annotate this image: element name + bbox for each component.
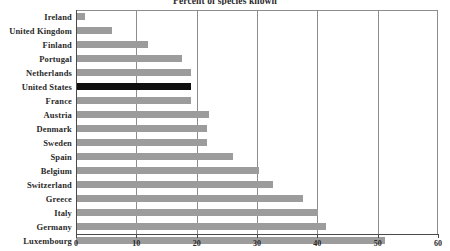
value-axis-origin-spine [76,10,77,235]
bar-chart: Percent of species known IrelandUnited K… [0,0,450,251]
bar [76,153,233,160]
category-label: Sweden [43,136,72,150]
category-label: Netherlands [26,66,72,80]
category-label: Switzerland [27,178,72,192]
bar [76,41,148,48]
plot-frame-right-border [437,10,438,234]
value-axis-tick-label: 10 [121,239,151,248]
value-axis-tick [197,234,198,238]
category-label: France [46,94,72,108]
bar [76,209,318,216]
bar [76,181,273,188]
category-label: Germany [36,220,72,234]
bar [76,97,191,104]
value-axis-tick-label: 30 [242,239,272,248]
category-label: United States [22,80,72,94]
category-label: Portugal [39,52,72,66]
bar [76,27,112,34]
category-label: Spain [50,150,72,164]
category-label: Finland [43,38,72,52]
bar [76,83,191,90]
category-label: Greece [46,192,72,206]
value-axis-tick-label: 60 [423,239,450,248]
bar [76,223,326,230]
value-axis-tick [136,234,137,238]
value-axis-tick [317,234,318,238]
bar [76,13,85,20]
bar [76,69,191,76]
value-axis-tick-label: 20 [182,239,212,248]
gridline-50 [378,10,379,234]
bar [76,195,303,202]
value-axis-tick [76,234,77,238]
category-label: Italy [54,206,72,220]
category-axis: IrelandUnited KingdomFinlandPortugalNeth… [0,10,74,234]
category-label: Denmark [36,122,72,136]
value-axis-tick-label: 50 [363,239,393,248]
value-axis-tick [438,234,439,238]
value-axis-tick [378,234,379,238]
value-axis-tick-label: 40 [302,239,332,248]
category-label: Belgium [41,164,72,178]
value-axis-tick [257,234,258,238]
category-label: United Kingdom [9,24,72,38]
gridline-40 [317,10,318,234]
category-label: Ireland [44,10,72,24]
bar [76,167,259,174]
bar [76,111,209,118]
bar [76,125,207,132]
bar [76,55,182,62]
value-axis: 0102030405060 [76,234,438,251]
plot-area [76,10,438,234]
value-axis-tick-label: 0 [61,239,91,248]
chart-title: Percent of species known [0,0,450,5]
category-label: Austria [44,108,72,122]
bar [76,139,207,146]
